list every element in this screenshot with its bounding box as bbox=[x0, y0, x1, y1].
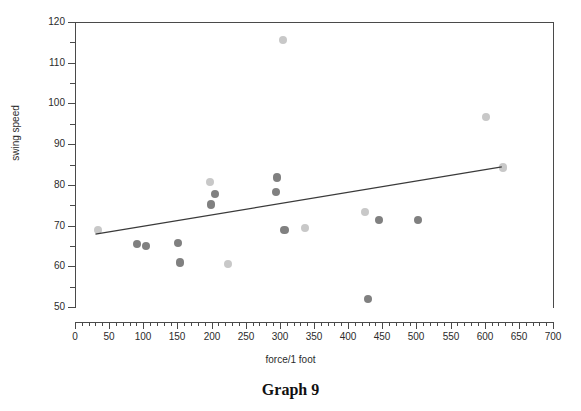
scatter-point bbox=[482, 113, 490, 121]
y-tick-minor bbox=[70, 165, 75, 166]
x-tick-minor bbox=[410, 323, 411, 326]
x-tick-minor bbox=[294, 323, 295, 326]
y-axis-line bbox=[75, 22, 76, 308]
x-tick-minor bbox=[136, 323, 137, 326]
x-axis-title: force/1 foot bbox=[0, 354, 581, 365]
x-tick-major bbox=[519, 323, 520, 329]
x-tick-minor bbox=[362, 323, 363, 326]
x-tick-minor bbox=[273, 323, 274, 326]
x-tick-minor bbox=[191, 323, 192, 326]
x-tick-minor bbox=[253, 323, 254, 326]
x-tick-major bbox=[314, 323, 315, 329]
x-tick-minor bbox=[300, 323, 301, 326]
scatter-point bbox=[224, 260, 232, 268]
x-tick-minor bbox=[130, 323, 131, 326]
scatter-point bbox=[272, 188, 280, 196]
x-tick-minor bbox=[218, 323, 219, 326]
x-tick-minor bbox=[546, 323, 547, 326]
scatter-point bbox=[133, 240, 141, 248]
y-tick-label: 90 bbox=[25, 139, 65, 149]
x-tick-minor bbox=[464, 323, 465, 326]
scatter-point bbox=[174, 239, 182, 247]
scatter-point bbox=[273, 173, 281, 181]
scatter-point bbox=[94, 226, 102, 234]
x-tick-minor bbox=[198, 323, 199, 326]
y-tick-major bbox=[68, 22, 75, 23]
x-tick-minor bbox=[444, 323, 445, 326]
x-tick-minor bbox=[375, 323, 376, 326]
x-tick-label: 150 bbox=[157, 332, 197, 342]
x-tick-major bbox=[143, 323, 144, 329]
y-tick-major bbox=[68, 103, 75, 104]
x-tick-minor bbox=[341, 323, 342, 326]
y-tick-label: 120 bbox=[25, 17, 65, 27]
x-tick-minor bbox=[533, 323, 534, 326]
scatter-point bbox=[361, 208, 369, 216]
y-tick-minor bbox=[70, 83, 75, 84]
x-tick-major bbox=[485, 323, 486, 329]
y-tick-major bbox=[68, 307, 75, 308]
figure-graph-9: 5060708090100110120050100150200250300350… bbox=[0, 0, 581, 411]
x-tick-major bbox=[109, 323, 110, 329]
x-tick-minor bbox=[328, 323, 329, 326]
x-tick-minor bbox=[355, 323, 356, 326]
x-tick-major bbox=[348, 323, 349, 329]
scatter-point bbox=[142, 242, 150, 250]
x-tick-minor bbox=[89, 323, 90, 326]
x-tick-minor bbox=[396, 323, 397, 326]
y-tick-minor bbox=[70, 287, 75, 288]
trend-line bbox=[95, 167, 501, 234]
y-tick-minor bbox=[70, 205, 75, 206]
x-tick-minor bbox=[423, 323, 424, 326]
x-tick-minor bbox=[492, 323, 493, 326]
scatter-point bbox=[279, 36, 287, 44]
x-tick-major bbox=[382, 323, 383, 329]
x-tick-minor bbox=[232, 323, 233, 326]
x-tick-minor bbox=[95, 323, 96, 326]
scatter-point bbox=[280, 226, 288, 234]
x-tick-minor bbox=[389, 323, 390, 326]
scatter-point bbox=[499, 163, 507, 171]
x-tick-major bbox=[75, 323, 76, 329]
x-tick-minor bbox=[498, 323, 499, 326]
y-axis-title: swing speed bbox=[10, 88, 21, 178]
y-tick-minor bbox=[70, 246, 75, 247]
x-tick-minor bbox=[225, 323, 226, 326]
x-tick-major bbox=[212, 323, 213, 329]
x-tick-major bbox=[451, 323, 452, 329]
x-tick-major bbox=[246, 323, 247, 329]
x-tick-minor bbox=[239, 323, 240, 326]
figure-caption: Graph 9 bbox=[0, 381, 581, 399]
scatter-point bbox=[375, 216, 383, 224]
x-tick-minor bbox=[437, 323, 438, 326]
x-tick-minor bbox=[457, 323, 458, 326]
y-tick-label: 110 bbox=[25, 58, 65, 68]
x-tick-minor bbox=[321, 323, 322, 326]
x-tick-minor bbox=[171, 323, 172, 326]
scatter-point bbox=[211, 190, 219, 198]
x-tick-minor bbox=[164, 323, 165, 326]
x-tick-minor bbox=[478, 323, 479, 326]
y-tick-major bbox=[68, 185, 75, 186]
x-tick-minor bbox=[369, 323, 370, 326]
x-tick-major bbox=[416, 323, 417, 329]
x-tick-minor bbox=[123, 323, 124, 326]
y-tick-major bbox=[68, 226, 75, 227]
scatter-point bbox=[207, 200, 215, 208]
x-tick-minor bbox=[512, 323, 513, 326]
x-tick-major bbox=[280, 323, 281, 329]
x-tick-minor bbox=[102, 323, 103, 326]
x-tick-minor bbox=[334, 323, 335, 326]
y-tick-label: 80 bbox=[25, 180, 65, 190]
x-tick-minor bbox=[287, 323, 288, 326]
x-tick-minor bbox=[266, 323, 267, 326]
y-tick-major bbox=[68, 63, 75, 64]
x-tick-minor bbox=[259, 323, 260, 326]
x-tick-major bbox=[553, 323, 554, 329]
scatter-point bbox=[414, 216, 422, 224]
y-tick-major bbox=[68, 266, 75, 267]
x-tick-minor bbox=[307, 323, 308, 326]
y-tick-label: 70 bbox=[25, 221, 65, 231]
x-tick-minor bbox=[403, 323, 404, 326]
y-tick-label: 100 bbox=[25, 98, 65, 108]
